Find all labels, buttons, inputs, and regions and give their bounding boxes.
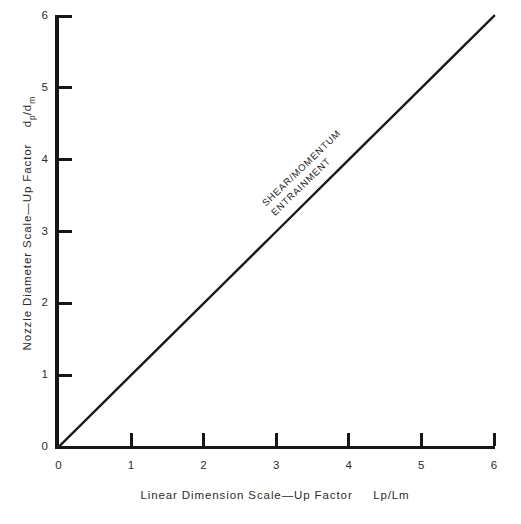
x-axis-title: Linear Dimension Scale—Up Factor Lp/Lm	[55, 489, 495, 501]
x-axis-symbol: Lp/Lm	[373, 489, 409, 501]
data-series-line	[59, 16, 495, 447]
y-axis-symbol: dp/dm	[21, 97, 33, 128]
chart-figure: 0123456 0123456 SHEAR/MOMENTUM ENTRAINME…	[0, 0, 521, 524]
x-axis-title-text: Linear Dimension Scale—Up Factor	[140, 489, 352, 501]
y-axis-title: Nozzle Diameter Scale—Up Factor dp/dm	[21, 29, 36, 419]
plot-area	[0, 0, 521, 524]
y-axis-title-text: Nozzle Diameter Scale—Up Factor	[21, 144, 33, 351]
